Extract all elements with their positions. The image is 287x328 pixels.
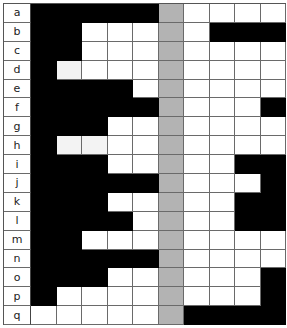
grid-cell-k-4 [108,193,134,212]
grid-cell-b-10 [261,23,287,42]
grid-cell-c-4 [108,42,134,61]
grid-cell-a-3 [82,4,108,23]
grid-cell-l-1 [31,212,57,231]
grid-cell-l-5 [133,212,159,231]
separator-cell-p [159,287,185,306]
row-label-d: d [4,61,31,80]
grid-cell-m-2 [57,231,83,250]
grid-cell-a-4 [108,4,134,23]
grid-cell-k-2 [57,193,83,212]
grid-cell-h-1 [31,136,57,155]
separator-cell-k [159,193,185,212]
grid-cell-e-10 [261,80,287,99]
grid-cell-e-4 [108,80,134,99]
grid-cell-i-2 [57,155,83,174]
separator-cell-g [159,117,185,136]
grid-cell-q-10 [261,306,287,325]
grid-cell-l-10 [261,212,287,231]
grid-cell-q-3 [82,306,108,325]
grid-cell-p-5 [133,287,159,306]
grid-cell-b-2 [57,23,83,42]
separator-cell-d [159,61,185,80]
grid-cell-k-1 [31,193,57,212]
grid-cell-i-3 [82,155,108,174]
grid-cell-e-5 [133,80,159,99]
grid-cell-q-4 [108,306,134,325]
grid-cell-j-10 [261,174,287,193]
grid-cell-b-8 [210,23,236,42]
grid-cell-a-2 [57,4,83,23]
grid-cell-p-2 [57,287,83,306]
grid-cell-c-2 [57,42,83,61]
grid-cell-h-3 [82,136,108,155]
row-label-l: l [4,212,31,231]
grid-cell-g-9 [235,117,261,136]
grid-cell-k-9 [235,193,261,212]
grid-cell-p-7 [184,287,210,306]
separator-cell-l [159,212,185,231]
grid-cell-a-10 [261,4,287,23]
grid-cell-g-2 [57,117,83,136]
grid-cell-i-10 [261,155,287,174]
grid-cell-c-1 [31,42,57,61]
grid-cell-m-5 [133,231,159,250]
grid-cell-d-2 [57,61,83,80]
grid-cell-a-5 [133,4,159,23]
grid-cell-m-10 [261,231,287,250]
grid-cell-b-4 [108,23,134,42]
separator-cell-q [159,306,185,325]
grid-cell-b-7 [184,23,210,42]
grid-cell-o-10 [261,268,287,287]
grid-cell-b-1 [31,23,57,42]
separator-cell-a [159,4,185,23]
grid-cell-m-9 [235,231,261,250]
grid-cell-k-5 [133,193,159,212]
row-label-b: b [4,23,31,42]
grid-cell-q-9 [235,306,261,325]
grid-cell-d-1 [31,61,57,80]
grid-cell-a-1 [31,4,57,23]
grid-cell-f-8 [210,98,236,117]
grid-cell-b-5 [133,23,159,42]
grid-cell-d-5 [133,61,159,80]
grid-cell-d-3 [82,61,108,80]
grid-cell-n-3 [82,250,108,269]
grid-cell-h-8 [210,136,236,155]
grid-cell-c-7 [184,42,210,61]
grid-cell-o-9 [235,268,261,287]
grid-cell-l-4 [108,212,134,231]
grid-cell-c-9 [235,42,261,61]
grid-cell-n-1 [31,250,57,269]
binary-grid: abcdefghijklmnopq [3,3,286,325]
grid-cell-l-9 [235,212,261,231]
grid-cell-o-4 [108,268,134,287]
grid-cell-b-3 [82,23,108,42]
grid-cell-k-7 [184,193,210,212]
grid-cell-q-5 [133,306,159,325]
grid-cell-q-1 [31,306,57,325]
grid-cell-e-7 [184,80,210,99]
grid-cell-p-1 [31,287,57,306]
row-label-p: p [4,287,31,306]
row-label-k: k [4,193,31,212]
grid-cell-e-8 [210,80,236,99]
grid-cell-m-1 [31,231,57,250]
grid-cell-c-5 [133,42,159,61]
grid-cell-h-5 [133,136,159,155]
grid-cell-c-8 [210,42,236,61]
row-label-e: e [4,80,31,99]
grid-cell-p-8 [210,287,236,306]
grid-cell-q-7 [184,306,210,325]
row-label-f: f [4,98,31,117]
grid-cell-j-4 [108,174,134,193]
grid-cell-o-7 [184,268,210,287]
grid-cell-e-3 [82,80,108,99]
grid-cell-g-4 [108,117,134,136]
separator-cell-e [159,80,185,99]
separator-cell-n [159,250,185,269]
grid-cell-e-1 [31,80,57,99]
separator-cell-i [159,155,185,174]
grid-cell-o-3 [82,268,108,287]
row-label-q: q [4,306,31,325]
grid-cell-c-10 [261,42,287,61]
